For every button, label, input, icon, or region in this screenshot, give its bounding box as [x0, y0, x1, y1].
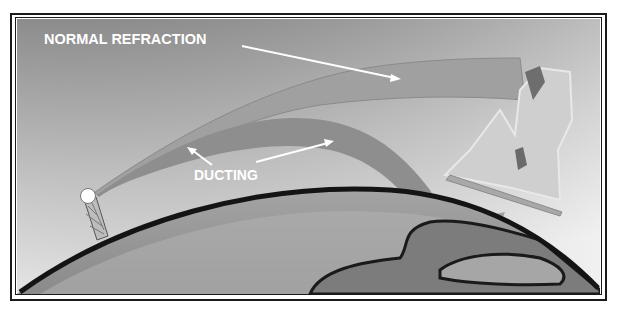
- ducting-label: DUCTING: [194, 167, 258, 183]
- refraction-diagram: NORMAL REFRACTION DUCTING: [17, 19, 600, 294]
- normal-refraction-label: NORMAL REFRACTION: [44, 31, 206, 47]
